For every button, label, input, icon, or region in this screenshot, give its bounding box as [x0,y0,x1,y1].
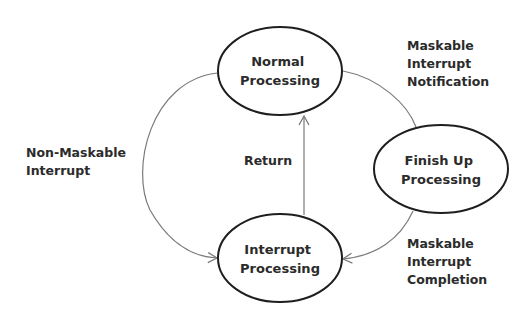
edge-return: Return [244,116,304,215]
non-maskable-arrow [143,73,218,258]
normal-processing-ellipse [218,27,342,115]
edge-maskable-notification: Maskable Interrupt Notification [343,38,489,127]
maskable-completion-arrow [343,211,413,259]
node-normal-processing: Normal Processing [218,27,342,115]
maskable-notification-label: Maskable Interrupt Notification [407,38,489,89]
maskable-completion-label: Maskable Interrupt Completion [407,236,487,287]
interrupt-processing-ellipse [218,214,342,302]
non-maskable-label: Non-Maskable Interrupt [26,145,130,178]
node-interrupt-processing: Interrupt Processing [218,214,342,302]
finish-up-processing-ellipse [374,125,508,213]
edge-non-maskable-interrupt: Non-Maskable Interrupt [26,73,218,258]
node-finish-up-processing: Finish Up Processing [374,125,508,213]
maskable-notification-line [343,71,416,127]
interrupt-state-diagram: Non-Maskable Interrupt Return Maskable I… [0,0,532,312]
edge-maskable-completion: Maskable Interrupt Completion [343,211,487,287]
return-label: Return [244,153,292,168]
